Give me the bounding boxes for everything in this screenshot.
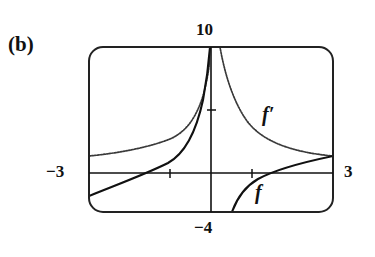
x-min-label: −3 (46, 163, 64, 180)
y-max-label: 10 (196, 21, 213, 38)
graph-canvas (0, 0, 375, 257)
x-max-label: 3 (344, 163, 353, 180)
y-min-label: −4 (194, 219, 212, 236)
curve-label-f-prime: f′ (262, 104, 274, 124)
curve-label-f: f (255, 182, 262, 202)
figure-container: (b) 10 −3 3 −4 f′ f (0, 0, 375, 257)
